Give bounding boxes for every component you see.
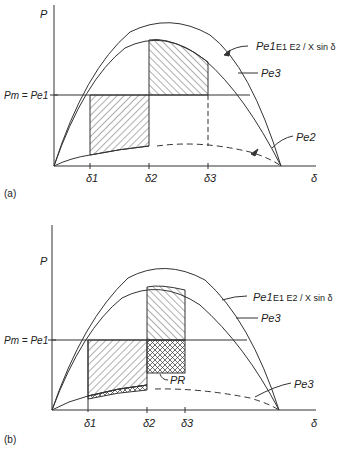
- x-axis-label: δ: [311, 172, 318, 184]
- decel-area: [149, 39, 208, 95]
- pe1-formula: E1 E2 / X sin δ: [276, 42, 336, 52]
- pr-label: PR: [170, 374, 185, 386]
- panel-b-label: (b): [4, 434, 16, 445]
- x-axis-label-b: δ: [311, 417, 318, 429]
- tick-delta2-b: δ2: [143, 417, 155, 429]
- tick-delta3-b: δ3: [181, 417, 194, 429]
- pe1-name: Pe1: [256, 40, 276, 52]
- pm-label: Pm = Pe1: [4, 90, 48, 101]
- accel-area: [90, 95, 149, 155]
- pe2-label: Pe2: [296, 131, 316, 143]
- crosshatch-pr: [147, 340, 185, 373]
- pe1-name-b: Pe1: [253, 291, 273, 303]
- tick-delta1: δ1: [86, 172, 98, 184]
- pe3-lower-label-b: Pe3: [294, 378, 314, 390]
- equal-area-diagram: P δ Pm = Pe1 δ1 δ2 δ3 (a) Pe1 E1 E2 / X …: [0, 0, 343, 454]
- tick-delta1-b: δ1: [84, 417, 96, 429]
- tick-delta2: δ2: [145, 172, 157, 184]
- pe3-label: Pe3: [261, 67, 281, 79]
- panel-a: [50, 5, 316, 169]
- pe1-formula-b: E1 E2 / X sin δ: [273, 293, 333, 303]
- tick-delta3: δ3: [204, 172, 217, 184]
- y-axis-label-b: P: [40, 255, 48, 267]
- y-axis-label: P: [40, 8, 48, 20]
- pm-label-b: Pm = Pe1: [4, 335, 48, 346]
- panel-a-label: (a): [4, 188, 16, 199]
- pe3-label-b: Pe3: [261, 312, 281, 324]
